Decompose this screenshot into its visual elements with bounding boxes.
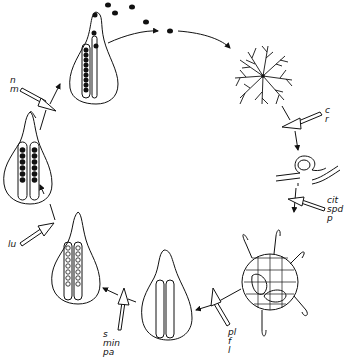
factor-lu: lu [8, 240, 16, 249]
factor-r: r [325, 115, 330, 124]
cycle-arrow-6 [103, 288, 118, 295]
factors-label-pl-f-l: pl f l [228, 328, 236, 355]
diagram-canvas [0, 0, 344, 360]
stage-mycelium [235, 46, 292, 104]
stage-hyphal-coil [276, 156, 340, 186]
factor-arrow-cr [282, 112, 322, 129]
connector-line-sminpa [128, 299, 136, 302]
stage-empty-fruiting-body [142, 250, 192, 340]
connector-line-lu [50, 204, 55, 220]
factor-m: m [10, 85, 19, 94]
connector-line-nm [40, 110, 46, 130]
factors-label-nm: n m [10, 76, 19, 94]
cycle-arrow-3 [295, 131, 298, 150]
cycle-arrow-1 [108, 31, 158, 43]
cycle-arrow-5 [196, 305, 212, 310]
factors-label-s-min-pa: s min pa [103, 330, 120, 357]
stage-mature-asci [4, 112, 52, 204]
factor-arrow-plfl [211, 288, 230, 326]
factors-label-cit-spd-p: cit spd p [327, 196, 343, 223]
factor-p: p [327, 214, 343, 223]
factor-arrow-sminpa [118, 288, 129, 330]
factor-pa: pa [103, 348, 120, 357]
factor-l: l [228, 346, 236, 355]
factors-label-cr: c r [325, 106, 330, 124]
cycle-arrow-8 [50, 84, 60, 104]
stage-developing-asci [52, 212, 100, 304]
life-cycle-diagram: n m c r cit spd p pl f l s min pa lu [0, 0, 344, 360]
factor-arrow-lu [20, 223, 54, 246]
stage-sclerotium [242, 230, 307, 336]
factor-arrow-nm [20, 88, 56, 111]
connector-line-cr [282, 106, 290, 120]
stage-mature-pycnidium [70, 3, 173, 105]
factors-label-lu: lu [8, 240, 16, 249]
factor-arrow-cit [288, 197, 325, 211]
cycle-arrow-2 [178, 31, 230, 48]
cycle-arrow-7 [40, 185, 44, 194]
